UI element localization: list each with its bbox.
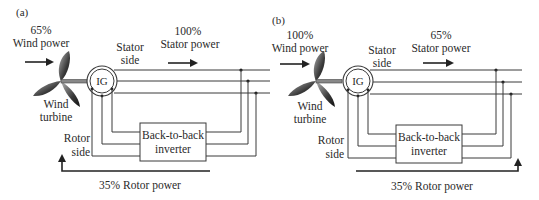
generator-label: IG	[92, 75, 112, 88]
wind-turbine-line2: turbine	[34, 111, 78, 124]
panel-a: (a) 65% Wind power 100% Stator power Sta…	[0, 0, 270, 200]
stator-power-percent: 100%	[165, 25, 211, 38]
rotor-side-line1: Rotor	[60, 132, 90, 145]
stator-side-line2: side	[110, 54, 150, 67]
rotor-side-line2: side	[314, 148, 344, 161]
panel-a-label: (a)	[16, 6, 28, 19]
stator-side-line1: Stator	[110, 41, 150, 54]
rotor-power-label: 35% Rotor power	[382, 180, 482, 193]
inverter-line1: Back-to-back	[396, 130, 462, 144]
wind-power-label: Wind power	[265, 42, 335, 55]
wind-power-label: Wind power	[6, 37, 76, 50]
wind-turbine-line1: Wind	[34, 98, 78, 111]
stator-three-phase-lines	[370, 70, 522, 94]
wind-power-percent: 100%	[282, 29, 318, 42]
stator-power-label: Stator power	[403, 42, 479, 55]
rotor-power-label: 35% Rotor power	[90, 179, 190, 192]
inverter-line2: inverter	[396, 144, 462, 158]
generator-label: IG	[348, 75, 368, 88]
inverter-line2: inverter	[140, 142, 206, 156]
stator-side-line1: Stator	[362, 44, 402, 57]
inverter-line1: Back-to-back	[140, 128, 206, 142]
stator-side-line2: side	[362, 57, 402, 70]
wind-power-percent: 65%	[17, 24, 65, 37]
wind-turbine-line1: Wind	[288, 100, 332, 113]
stator-power-label: Stator power	[152, 38, 228, 51]
wind-turbine-line2: turbine	[288, 113, 332, 126]
rotor-side-line1: Rotor	[314, 134, 344, 147]
wind-turbine-icon	[288, 51, 342, 107]
stator-power-percent: 65%	[423, 29, 459, 42]
panel-b: (b) 100% Wind power 65% Stator power Sta…	[270, 0, 539, 200]
rotor-side-line2: side	[60, 146, 90, 159]
panel-b-label: (b)	[272, 14, 285, 27]
